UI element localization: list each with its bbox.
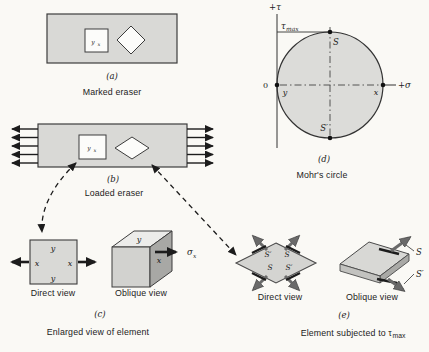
marked-square-a bbox=[85, 29, 108, 52]
point-s-prime-label: S′ bbox=[320, 123, 328, 133]
eraser-mohr-figure: y x (a) Marked eraser y x (b) Loaded era… bbox=[0, 0, 429, 352]
panel-e: S′ S S S′ Direct view S S′ Oblique view … bbox=[236, 237, 424, 339]
shear-element-diamond bbox=[236, 243, 316, 283]
panel-e-direct-view-label: Direct view bbox=[258, 292, 303, 302]
element-label-x-left: x bbox=[35, 259, 40, 268]
marked-square-b-label-y: y bbox=[86, 144, 91, 152]
shear-label-s-bl: S bbox=[267, 263, 272, 272]
tau-max-sub-label: max bbox=[286, 25, 299, 32]
oblique-label-s: S bbox=[416, 247, 422, 257]
point-y-dot bbox=[275, 83, 280, 88]
panel-b-caption: Loaded eraser bbox=[85, 188, 144, 198]
leader-line-s bbox=[406, 245, 414, 251]
sigma-sub-label: x bbox=[193, 252, 197, 259]
eraser-b-body bbox=[38, 124, 187, 167]
element-label-y-bottom: y bbox=[50, 274, 56, 283]
load-arrows-left bbox=[12, 129, 38, 163]
point-s-prime-dot bbox=[328, 136, 333, 141]
cube-label-y: y bbox=[136, 235, 142, 244]
panel-d: +τ +σ τ max S S′ y x 0 (d) Mohr's circle bbox=[263, 2, 411, 180]
eraser-a-body bbox=[47, 14, 177, 63]
element-label-y-top: y bbox=[50, 244, 56, 253]
load-arrows-right bbox=[187, 129, 213, 163]
cube-front-face bbox=[112, 247, 150, 287]
panel-e-oblique-view-label: Oblique view bbox=[346, 292, 399, 302]
marked-square-b bbox=[79, 135, 106, 159]
panel-c-oblique-view-label: Oblique view bbox=[115, 288, 168, 298]
oblique-label-s-prime: S′ bbox=[416, 269, 424, 279]
point-x-dot bbox=[381, 83, 386, 88]
panel-b-tag: (b) bbox=[107, 174, 119, 184]
panel-b: y x (b) Loaded eraser bbox=[12, 124, 213, 198]
point-y-label: y bbox=[282, 88, 288, 97]
shear-label-s-prime-tl: S′ bbox=[265, 250, 272, 259]
point-s-dot bbox=[328, 30, 333, 35]
leader-line-s-prime bbox=[404, 274, 414, 284]
shear-plate-arrow-down bbox=[388, 279, 403, 290]
panel-d-tag: (d) bbox=[318, 154, 330, 164]
shear-plate-arrow-up bbox=[391, 238, 409, 251]
figure-canvas: y x (a) Marked eraser y x (b) Loaded era… bbox=[0, 0, 429, 352]
marked-square-a-label-x: x bbox=[98, 41, 101, 47]
marked-square-b-label-x: x bbox=[94, 147, 97, 153]
shear-label-s-tr: S bbox=[284, 250, 289, 259]
marked-square-a-label-y: y bbox=[90, 38, 95, 46]
panel-a-tag: (a) bbox=[106, 71, 118, 81]
sigma-axis-label: +σ bbox=[398, 80, 411, 90]
tau-axis-label: +τ bbox=[269, 2, 281, 12]
panel-c-tag: (c) bbox=[94, 309, 105, 319]
panel-e-caption: Element subjected to τ bbox=[301, 328, 393, 338]
point-x-label: x bbox=[374, 88, 379, 97]
panel-c-direct-view-label: Direct view bbox=[31, 288, 76, 298]
panel-c-caption: Enlarged view of element bbox=[47, 327, 150, 337]
element-label-x-right: x bbox=[68, 259, 73, 268]
shear-label-s-prime-br: S′ bbox=[286, 263, 293, 272]
dashed-connector-square-to-direct-view bbox=[42, 163, 76, 232]
panel-e-caption-sub: max bbox=[393, 332, 406, 339]
panel-c: y y x x Direct view y x σ x Oblique view… bbox=[12, 231, 197, 337]
panel-d-caption: Mohr's circle bbox=[296, 170, 347, 180]
panel-a: y x (a) Marked eraser bbox=[47, 14, 177, 97]
panel-e-tag: (e) bbox=[338, 310, 350, 320]
panel-a-caption: Marked eraser bbox=[83, 87, 142, 97]
cube-label-x: x bbox=[157, 256, 162, 265]
origin-label: 0 bbox=[263, 81, 268, 90]
point-s-label: S bbox=[333, 37, 339, 47]
